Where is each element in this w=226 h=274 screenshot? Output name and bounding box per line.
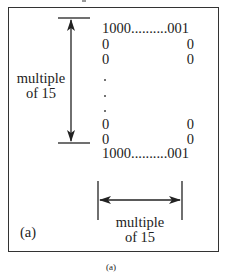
panel-label: (a) (20, 225, 36, 240)
ellipsis-dot (104, 79, 106, 81)
figure-caption: (a) (106, 262, 116, 272)
matrix-cell-right: 0 (187, 117, 194, 132)
ellipsis-dot (104, 110, 106, 112)
horizontal-label-line2: of 15 (104, 230, 176, 245)
matrix-cell-left: 0 (102, 117, 109, 132)
matrix-cell-right: 0 (187, 52, 194, 67)
vertical-label-line1: multiple (10, 71, 72, 86)
matrix-row-text: 1000..........001 (102, 146, 189, 161)
vertical-dimension-label: multiple of 15 (10, 71, 72, 101)
matrix-cell-left: 0 (102, 52, 109, 67)
horizontal-dimension-label: multiple of 15 (104, 215, 176, 245)
matrix-cell-left: 0 (102, 37, 109, 52)
vertical-label-line2: of 15 (10, 86, 72, 101)
matrix-row-text: 1000..........001 (102, 21, 189, 36)
matrix-cell-right: 0 (187, 37, 194, 52)
horizontal-label-line1: multiple (104, 215, 176, 230)
ellipsis-dot (104, 95, 106, 97)
